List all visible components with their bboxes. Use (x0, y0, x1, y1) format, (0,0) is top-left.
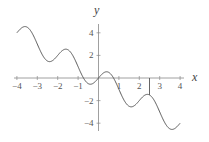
y-tick-label: −4 (84, 118, 94, 128)
x-tick-label: 4 (178, 81, 183, 91)
y-tick-label: 2 (89, 50, 94, 60)
y-tick-label: 4 (89, 28, 94, 38)
x-tick-label: −2 (53, 81, 63, 91)
x-tick-label: 2 (137, 81, 142, 91)
x-tick-label: −4 (12, 81, 22, 91)
x-axis-label: x (191, 70, 198, 84)
x-tick-label: −1 (73, 81, 83, 91)
x-tick-label: 3 (157, 81, 162, 91)
x-tick-label: −3 (33, 81, 43, 91)
y-axis-label: y (93, 3, 100, 17)
function-plot: −4−3−2−11234 42−2−4 x y (0, 0, 209, 142)
y-tick-label: −2 (84, 96, 94, 106)
